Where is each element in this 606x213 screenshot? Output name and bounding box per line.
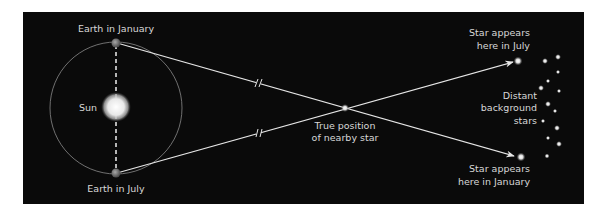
label-star-january-1: Star appears — [469, 163, 530, 174]
earth-july-icon — [112, 169, 121, 178]
label-background-1: Distant — [503, 90, 537, 101]
label-star-january-2: here in January — [458, 176, 531, 187]
sun-icon — [101, 92, 131, 122]
label-background-3: stars — [514, 115, 537, 126]
label-star-july-1: Star appears — [469, 27, 530, 38]
label-earth-july: Earth in July — [87, 183, 145, 194]
nearby-star-icon — [341, 104, 349, 112]
apparent-star-january-icon — [517, 153, 526, 162]
earth-january-icon — [112, 39, 121, 48]
label-background-2: background — [481, 102, 537, 113]
label-earth-january: Earth in January — [78, 23, 155, 34]
label-star-july-2: here in July — [477, 40, 531, 51]
label-sun: Sun — [79, 102, 97, 113]
label-true-position-1: True position — [314, 120, 376, 131]
parallax-diagram: Earth in January Earth in July Sun True … — [0, 0, 606, 213]
apparent-star-july-icon — [514, 57, 523, 66]
label-true-position-2: of nearby star — [312, 132, 379, 143]
